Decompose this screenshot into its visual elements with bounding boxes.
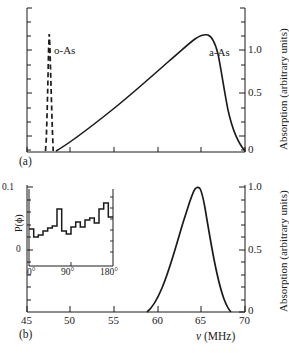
panel-b-right-ticks xyxy=(239,187,245,312)
panel-b-xtick-50: 50 xyxy=(64,315,75,326)
figure-absorption-spectra: o-As a-As 1.0 0.5 0 Absorption (arbitrar… xyxy=(0,0,289,353)
inset-xtick-90: 90° xyxy=(61,268,74,278)
panel-a-ytick-2: 0.5 xyxy=(248,87,262,98)
inset-axis-title: P(ϕ) xyxy=(13,215,24,233)
inset-histogram-group xyxy=(29,189,113,266)
panel-b-ytick-1: 1.0 xyxy=(248,181,262,192)
panel-a-tag: (a) xyxy=(19,156,32,168)
panel-b-axis-title: Absorption (arbitrary units) xyxy=(277,190,289,312)
panel-a-group xyxy=(27,8,245,152)
panel-b-ytick-2: 0.5 xyxy=(248,244,262,255)
figure-canvas xyxy=(0,0,289,353)
inset-xtick-180: 180° xyxy=(100,268,118,278)
curve-label-o-as: o-As xyxy=(54,45,75,56)
inset-ytop-label: 0.1 xyxy=(2,183,14,193)
curve-panel-b-absorption xyxy=(147,187,231,312)
panel-b-group xyxy=(27,185,245,312)
panel-b-xtick-60: 60 xyxy=(152,315,163,326)
panel-b-bottom-ticks xyxy=(27,306,245,312)
panel-a-right-ticks xyxy=(239,8,245,150)
panel-b-xtick-55: 55 xyxy=(108,315,119,326)
inset-step-histogram xyxy=(29,203,113,237)
xaxis-title: ν (MHz) xyxy=(196,331,235,343)
panel-a-axis-title: Absorption (arbitrary units) xyxy=(277,28,289,150)
xaxis-title-units: (MHz) xyxy=(204,330,235,342)
panel-a-ytick-3: 0 xyxy=(248,144,254,155)
panel-a-ytick-1: 1.0 xyxy=(248,44,262,55)
curve-label-a-as: a-As xyxy=(209,47,230,58)
inset-xtick-0: 0° xyxy=(27,268,36,278)
inset-ybottom-label: 0 xyxy=(16,245,21,255)
panel-b-xtick-70: 70 xyxy=(239,315,250,326)
curve-o-as xyxy=(46,34,54,151)
panel-b-tag: (b) xyxy=(19,329,32,341)
panel-b-xtick-65: 65 xyxy=(195,315,206,326)
panel-b-xtick-45: 45 xyxy=(21,315,32,326)
panel-a-left-ticks xyxy=(27,8,32,150)
panel-b-left-ticks xyxy=(27,187,33,300)
